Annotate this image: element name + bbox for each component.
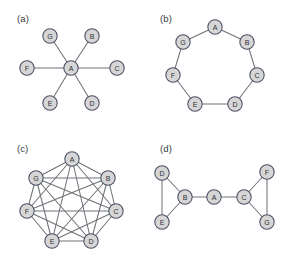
panel-b-caption: (b) <box>160 13 172 24</box>
node-G-label: G <box>180 39 185 46</box>
node-A-label: A <box>69 65 74 72</box>
node-A: A <box>65 152 79 166</box>
node-G: G <box>29 171 43 185</box>
panel-d: (d)ABCDEFG <box>143 130 286 260</box>
node-D: D <box>228 97 242 111</box>
node-D-label: D <box>89 100 94 107</box>
node-A: A <box>208 20 222 34</box>
node-D-label: D <box>232 101 237 108</box>
node-F: F <box>20 61 34 75</box>
panel-c-nodes: ABCDEFG <box>20 152 123 248</box>
edge-C-E <box>52 211 116 241</box>
node-C-label: C <box>254 72 259 79</box>
node-C-label: C <box>113 208 118 215</box>
panel-b-svg: (b)ABCDEFG <box>143 0 286 130</box>
node-A: A <box>64 61 78 75</box>
node-E: E <box>188 97 202 111</box>
node-E-label: E <box>50 238 55 245</box>
node-C: C <box>250 68 264 82</box>
node-C-label: C <box>241 194 246 201</box>
node-C: C <box>110 61 124 75</box>
node-E-label: E <box>48 100 53 107</box>
panel-a: (a)ABCDEFG <box>0 0 143 130</box>
node-E: E <box>43 96 57 110</box>
node-E-label: E <box>193 101 198 108</box>
node-D: D <box>155 166 169 180</box>
panel-d-nodes: ABCDEFG <box>155 165 274 229</box>
node-F: F <box>260 165 274 179</box>
node-C: C <box>237 190 251 204</box>
node-D-label: D <box>159 170 164 177</box>
node-G: G <box>43 29 57 43</box>
node-B: B <box>85 29 99 43</box>
graph-figure: (a)ABCDEFG (b)ABCDEFG (c)ABCDEFG (d)ABCD… <box>0 0 286 260</box>
node-D: D <box>85 96 99 110</box>
node-C: C <box>109 204 123 218</box>
node-E: E <box>155 215 169 229</box>
panel-c-edges <box>27 159 116 241</box>
node-F-label: F <box>171 72 175 79</box>
node-G: G <box>260 215 274 229</box>
node-A-label: A <box>70 156 75 163</box>
node-B-label: B <box>245 39 250 46</box>
edge-D-F <box>27 211 91 241</box>
node-F-label: F <box>25 208 29 215</box>
node-G: G <box>176 35 190 49</box>
node-A-label: A <box>212 194 217 201</box>
node-F: F <box>20 204 34 218</box>
node-B-label: B <box>106 175 111 182</box>
node-D: D <box>84 234 98 248</box>
node-G-label: G <box>33 175 38 182</box>
node-F-label: F <box>25 65 29 72</box>
node-A: A <box>207 190 221 204</box>
panel-a-svg: (a)ABCDEFG <box>0 0 143 130</box>
panel-c: (c)ABCDEFG <box>0 130 143 260</box>
node-B-label: B <box>90 33 95 40</box>
node-B: B <box>101 171 115 185</box>
node-E-label: E <box>160 219 165 226</box>
panel-c-caption: (c) <box>17 143 28 154</box>
node-C-label: C <box>114 65 119 72</box>
node-B: B <box>178 190 192 204</box>
node-G-label: G <box>264 219 269 226</box>
node-E: E <box>45 234 59 248</box>
panel-b: (b)ABCDEFG <box>143 0 286 130</box>
node-F: F <box>166 68 180 82</box>
panel-a-nodes: ABCDEFG <box>20 29 124 110</box>
panel-a-caption: (a) <box>17 13 29 24</box>
node-B: B <box>240 35 254 49</box>
panel-c-svg: (c)ABCDEFG <box>0 130 143 260</box>
node-B-label: B <box>183 194 188 201</box>
node-A-label: A <box>213 24 218 31</box>
panel-d-svg: (d)ABCDEFG <box>143 130 286 260</box>
node-G-label: G <box>47 33 52 40</box>
node-D-label: D <box>88 238 93 245</box>
node-F-label: F <box>265 169 269 176</box>
panel-d-caption: (d) <box>160 143 172 154</box>
panel-b-nodes: ABCDEFG <box>166 20 264 111</box>
